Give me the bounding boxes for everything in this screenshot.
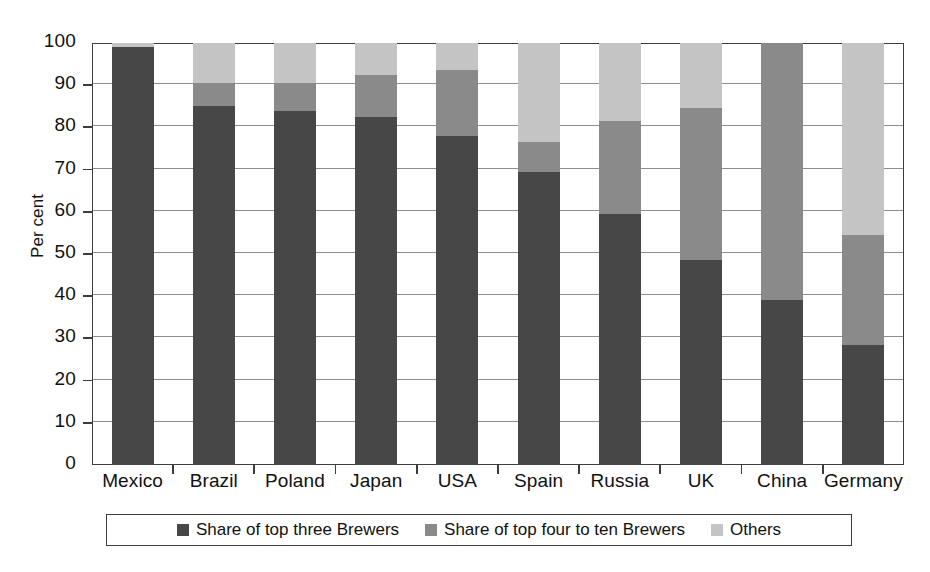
bar-poland[interactable] <box>274 43 316 465</box>
bar-china[interactable] <box>761 43 803 465</box>
bar-spain[interactable] <box>518 43 560 465</box>
bar-segment[interactable] <box>842 345 884 465</box>
bar-segment[interactable] <box>274 83 316 110</box>
y-axis-ticks: 0102030405060708090100 <box>0 0 92 572</box>
legend-swatch-icon <box>177 524 189 536</box>
y-tick-label: 100 <box>44 30 76 52</box>
x-label-spain: Spain <box>498 470 579 492</box>
y-tick-mark <box>83 295 92 297</box>
bar-segment[interactable] <box>842 235 884 345</box>
bar-segment[interactable] <box>518 43 560 142</box>
legend-item[interactable]: Share of top four to ten Brewers <box>425 520 685 540</box>
bar-segment[interactable] <box>274 111 316 465</box>
bar-segment[interactable] <box>193 43 235 83</box>
bar-segment[interactable] <box>842 43 884 235</box>
y-tick-mark <box>83 84 92 86</box>
legend-swatch-icon <box>711 524 723 536</box>
y-tick-label: 20 <box>54 368 76 390</box>
bar-mexico[interactable] <box>112 43 154 465</box>
y-tick-mark <box>83 126 92 128</box>
bar-segment[interactable] <box>599 214 641 465</box>
x-axis-labels: MexicoBrazilPolandJapanUSASpainRussiaUKC… <box>92 470 904 500</box>
bar-segment[interactable] <box>761 300 803 465</box>
x-label-brazil: Brazil <box>173 470 254 492</box>
bar-segment[interactable] <box>355 75 397 117</box>
bar-segment[interactable] <box>518 172 560 465</box>
y-tick-label: 80 <box>54 114 76 136</box>
y-tick-label: 30 <box>54 325 76 347</box>
bar-russia[interactable] <box>599 43 641 465</box>
bar-japan[interactable] <box>355 43 397 465</box>
y-tick-label: 60 <box>54 199 76 221</box>
bar-segment[interactable] <box>355 43 397 75</box>
bar-segment[interactable] <box>436 136 478 465</box>
legend-label: Others <box>730 520 781 540</box>
y-tick-mark <box>83 211 92 213</box>
legend-swatch-icon <box>425 524 437 536</box>
x-label-usa: USA <box>417 470 498 492</box>
bar-segment[interactable] <box>193 106 235 465</box>
legend-item[interactable]: Share of top three Brewers <box>177 520 399 540</box>
stacked-bar-chart: Per cent 0102030405060708090100 MexicoBr… <box>0 0 930 572</box>
bar-segment[interactable] <box>680 43 722 108</box>
chart-legend: Share of top three BrewersShare of top f… <box>106 514 852 546</box>
bar-segment[interactable] <box>761 43 803 300</box>
y-tick-mark <box>83 422 92 424</box>
bar-germany[interactable] <box>842 43 884 465</box>
bar-segment[interactable] <box>436 43 478 70</box>
x-label-uk: UK <box>660 470 741 492</box>
bar-segment[interactable] <box>599 43 641 121</box>
bar-segment[interactable] <box>599 121 641 214</box>
bar-segment[interactable] <box>193 83 235 106</box>
bar-brazil[interactable] <box>193 43 235 465</box>
bar-segment[interactable] <box>112 43 154 47</box>
bar-segment[interactable] <box>112 47 154 465</box>
bar-uk[interactable] <box>680 43 722 465</box>
bar-segment[interactable] <box>274 43 316 83</box>
y-tick-mark <box>83 169 92 171</box>
bar-usa[interactable] <box>436 43 478 465</box>
x-label-germany: Germany <box>823 470 904 492</box>
y-tick-mark <box>83 253 92 255</box>
bar-segment[interactable] <box>680 260 722 465</box>
y-tick-label: 10 <box>54 410 76 432</box>
x-label-japan: Japan <box>336 470 417 492</box>
bars-layer <box>92 43 904 465</box>
y-tick-label: 50 <box>54 241 76 263</box>
y-tick-mark <box>83 380 92 382</box>
y-tick-mark <box>83 337 92 339</box>
y-tick-label: 90 <box>54 72 76 94</box>
legend-label: Share of top three Brewers <box>196 520 399 540</box>
y-tick-label: 0 <box>65 452 76 474</box>
legend-item[interactable]: Others <box>711 520 781 540</box>
x-label-poland: Poland <box>254 470 335 492</box>
x-label-mexico: Mexico <box>92 470 173 492</box>
bar-segment[interactable] <box>680 108 722 260</box>
bar-segment[interactable] <box>436 70 478 135</box>
x-label-russia: Russia <box>579 470 660 492</box>
bar-segment[interactable] <box>355 117 397 465</box>
x-label-china: China <box>742 470 823 492</box>
y-tick-label: 70 <box>54 157 76 179</box>
y-tick-label: 40 <box>54 283 76 305</box>
legend-label: Share of top four to ten Brewers <box>444 520 685 540</box>
bar-segment[interactable] <box>518 142 560 172</box>
